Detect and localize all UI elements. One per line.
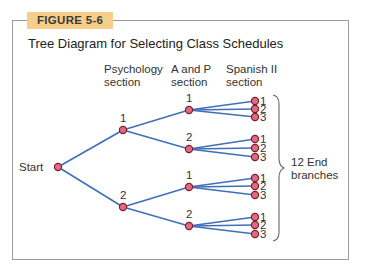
tree-edge	[58, 167, 123, 207]
ap-node	[185, 183, 192, 190]
spanish-node	[251, 213, 258, 220]
tree-edge	[123, 130, 189, 149]
spanish-node	[251, 182, 258, 189]
tree-edge	[123, 207, 189, 226]
tree-edge	[123, 110, 189, 130]
ap-header-line1: A and P	[171, 63, 212, 75]
spanish-node	[251, 153, 258, 160]
spanish-node-label: 3	[260, 111, 266, 123]
ap-node	[185, 106, 192, 113]
spanish-header-line1: Spanish II	[226, 63, 277, 75]
tree-edge	[189, 225, 255, 226]
ap-node-label: 1	[186, 169, 192, 181]
psychology-node	[119, 203, 126, 210]
ap-node-label: 2	[186, 131, 192, 143]
spanish-node	[251, 135, 258, 142]
ap-node	[185, 222, 192, 229]
tree-edge	[189, 148, 255, 149]
spanish-node	[251, 144, 258, 151]
spanish-node	[251, 230, 258, 237]
start-label: Start	[19, 161, 44, 173]
spanish-node	[251, 191, 258, 198]
brace-label-line1: 12 End	[291, 156, 327, 168]
spanish-header-line2: section	[226, 76, 262, 88]
tree-edges	[58, 101, 255, 234]
spanish-node	[251, 113, 258, 120]
spanish-node	[251, 97, 258, 104]
tree-edge	[189, 109, 255, 110]
ap-header-line2: section	[171, 76, 207, 88]
tree-edge	[123, 187, 189, 207]
tree-edge	[189, 149, 255, 157]
tree-edge	[189, 187, 255, 195]
brace-icon	[273, 95, 284, 241]
spanish-node-label: 3	[260, 228, 266, 240]
tree-edge	[189, 226, 255, 234]
spanish-node-label: 3	[260, 189, 266, 201]
ap-node-label: 2	[186, 208, 192, 220]
tree-edge	[189, 110, 255, 117]
spanish-node-label: 3	[260, 151, 266, 163]
tree-edge	[58, 130, 123, 167]
spanish-node	[251, 221, 258, 228]
brace-label-line2: branches	[291, 169, 339, 181]
tree-diagram: Psychology section A and P section Spani…	[0, 0, 368, 271]
spanish-node	[251, 105, 258, 112]
tree-edge	[189, 186, 255, 187]
start-node	[54, 163, 61, 170]
psychology-header-line2: section	[104, 76, 140, 88]
ap-node-label: 1	[186, 92, 192, 104]
column-headers: Psychology section A and P section Spani…	[104, 63, 277, 88]
psychology-node-label: 2	[120, 189, 126, 201]
ap-node	[185, 145, 192, 152]
psychology-header-line1: Psychology	[104, 63, 163, 75]
psychology-node	[119, 126, 126, 133]
spanish-node	[251, 174, 258, 181]
psychology-node-label: 1	[120, 112, 126, 124]
